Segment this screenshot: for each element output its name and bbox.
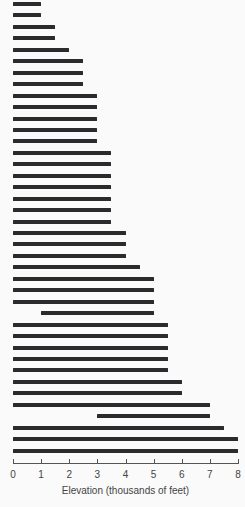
- range-bar: [13, 117, 97, 121]
- range-bar: [13, 139, 97, 143]
- range-bar: [13, 128, 97, 132]
- range-bar: [13, 368, 168, 372]
- range-bar: [13, 334, 168, 338]
- x-tick-label: 6: [175, 469, 189, 480]
- x-tick-label: 1: [34, 469, 48, 480]
- x-tick: [182, 459, 183, 464]
- range-bar: [13, 323, 168, 327]
- x-tick-label: 5: [147, 469, 161, 480]
- x-tick: [126, 459, 127, 464]
- range-bar: [97, 414, 210, 418]
- range-bar: [13, 185, 111, 189]
- range-bar: [13, 197, 111, 201]
- range-bar: [13, 71, 83, 75]
- range-bar: [13, 2, 41, 6]
- range-bar: [13, 449, 238, 453]
- x-tick-label: 0: [6, 469, 20, 480]
- range-bar: [13, 59, 83, 63]
- x-tick: [97, 459, 98, 464]
- range-bar: [13, 13, 41, 17]
- range-bar: [13, 300, 154, 304]
- range-bar: [13, 162, 111, 166]
- x-tick: [41, 459, 42, 464]
- elevation-range-chart: 012345678 Elevation (thousands of feet): [0, 0, 245, 507]
- range-bar: [13, 346, 168, 350]
- range-bar: [13, 48, 69, 52]
- range-bar: [13, 105, 97, 109]
- x-tick: [13, 459, 14, 464]
- range-bar: [13, 391, 182, 395]
- range-bar: [13, 357, 168, 361]
- x-tick-label: 4: [119, 469, 133, 480]
- range-bar: [13, 36, 55, 40]
- range-bar: [13, 254, 126, 258]
- range-bar: [13, 208, 111, 212]
- x-tick: [238, 459, 239, 464]
- x-tick: [210, 459, 211, 464]
- x-tick-label: 3: [90, 469, 104, 480]
- range-bar: [13, 288, 154, 292]
- range-bar: [13, 437, 238, 441]
- range-bar: [13, 242, 126, 246]
- range-bar: [13, 82, 83, 86]
- x-axis-label: Elevation (thousands of feet): [0, 485, 245, 496]
- range-bar: [13, 426, 224, 430]
- range-bar: [13, 231, 126, 235]
- range-bar: [13, 94, 97, 98]
- range-bar: [13, 220, 111, 224]
- x-tick: [69, 459, 70, 464]
- range-bar: [13, 151, 111, 155]
- range-bar: [13, 174, 111, 178]
- x-tick-label: 2: [62, 469, 76, 480]
- range-bar: [41, 311, 154, 315]
- range-bar: [13, 380, 182, 384]
- range-bar: [13, 25, 55, 29]
- x-tick-label: 7: [203, 469, 217, 480]
- range-bar: [13, 277, 154, 281]
- x-tick-label: 8: [231, 469, 245, 480]
- range-bar: [13, 265, 140, 269]
- range-bar: [13, 403, 210, 407]
- x-tick: [154, 459, 155, 464]
